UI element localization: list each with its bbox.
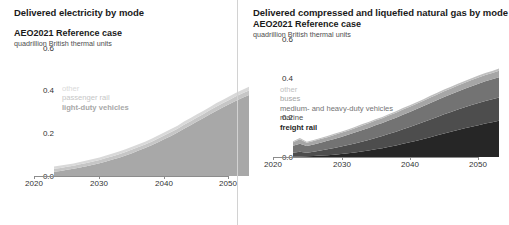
right-chart-subtitle: AEO2021 Reference case xyxy=(253,19,509,30)
left-xtick-0: 2020 xyxy=(25,179,43,188)
right-plot-area xyxy=(293,39,499,157)
right-chart-title: Delivered compressed and liquefied natur… xyxy=(253,7,509,19)
right-xtick-2: 2040 xyxy=(401,160,419,169)
panel-electricity: Delivered electricity by mode AEO2021 Re… xyxy=(0,0,237,225)
left-x-axis: 2020 2030 2040 2050 xyxy=(34,176,229,190)
left-plot-area xyxy=(54,48,249,176)
left-chart-subtitle: AEO2021 Reference case xyxy=(14,28,237,39)
left-xtick-1: 2030 xyxy=(90,179,108,188)
panel-natural-gas: Delivered compressed and liquefied natur… xyxy=(237,0,509,225)
left-y-axis-labels: 0.6 0.4 0.2 0.0 xyxy=(34,48,54,176)
right-area-chart xyxy=(293,39,499,157)
left-xtick-3: 2050 xyxy=(219,179,237,188)
left-ytick-0: 0.6 xyxy=(43,43,54,52)
right-ytick-1: 0.4 xyxy=(282,73,293,82)
right-y-axis-labels: 0.6 0.4 0.2 0.0 xyxy=(273,39,293,157)
chart-pair: Delivered electricity by mode AEO2021 Re… xyxy=(0,0,509,225)
right-x-axis: 2020 2030 2040 2050 xyxy=(273,157,479,171)
left-ytick-2: 0.2 xyxy=(43,128,54,137)
right-plot-wrap: 0.6 0.4 0.2 0.0 xyxy=(273,39,499,157)
right-axis-line xyxy=(273,157,479,158)
left-ytick-1: 0.4 xyxy=(43,86,54,95)
left-area-chart xyxy=(54,48,249,176)
left-chart-title: Delivered electricity by mode xyxy=(14,7,237,19)
left-plot-wrap: 0.6 0.4 0.2 0.0 xyxy=(34,48,249,176)
left-axis-line xyxy=(34,176,229,177)
right-ytick-2: 0.2 xyxy=(282,113,293,122)
right-xtick-0: 2020 xyxy=(264,160,282,169)
right-ytick-0: 0.6 xyxy=(282,34,293,43)
right-xtick-1: 2030 xyxy=(333,160,351,169)
right-xtick-3: 2050 xyxy=(469,160,487,169)
left-xtick-2: 2040 xyxy=(155,179,173,188)
